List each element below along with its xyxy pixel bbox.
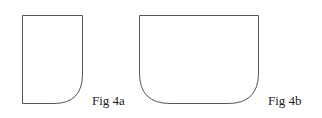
figure-4b: Fig 4b xyxy=(140,16,302,109)
fig-4b-label: Fig 4b xyxy=(268,93,302,108)
fig-4b-shape xyxy=(140,16,259,104)
fig-4a-shape xyxy=(23,16,83,104)
figure-canvas: Fig 4a Fig 4b xyxy=(0,0,322,118)
fig-4a-label: Fig 4a xyxy=(92,93,125,108)
figure-4a: Fig 4a xyxy=(23,16,126,109)
